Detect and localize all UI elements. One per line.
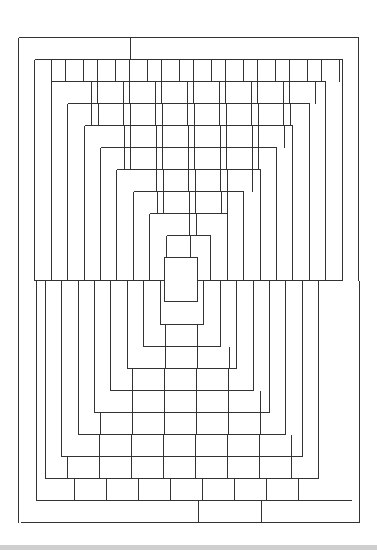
bottom-bar (0, 545, 377, 550)
brick-spiral-drawing (0, 0, 377, 550)
drawing-lines (19, 38, 360, 523)
center-rectangle (165, 258, 198, 302)
